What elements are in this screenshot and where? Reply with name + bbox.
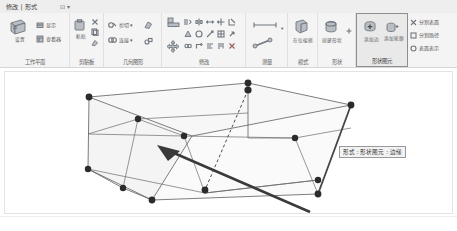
- vertex-top-back-left: [86, 94, 93, 101]
- mirror-pick-icon: [206, 18, 214, 26]
- button-align[interactable]: [167, 17, 181, 29]
- button-match-type[interactable]: [91, 39, 99, 47]
- button-add-edge-label: 添加边: [361, 37, 381, 42]
- model-canvas[interactable]: 形式 : 形状图元 : 边缘: [4, 71, 453, 214]
- vertex-top-front-right: [348, 102, 355, 109]
- panel-shape-element-label: 形状图元: [357, 57, 407, 65]
- button-add-profile[interactable]: 添加轮廓: [384, 20, 404, 41]
- button-pin[interactable]: [217, 30, 225, 38]
- button-offset[interactable]: [184, 18, 192, 26]
- button-cut-geometry-label: 剪切: [119, 23, 129, 28]
- button-demolish[interactable]: [144, 21, 153, 29]
- button-edit-in-place-label: 在位编辑: [292, 38, 314, 43]
- button-align-h[interactable]: [206, 42, 214, 50]
- trim-icon: [228, 18, 236, 26]
- workplane-show-icon: [36, 21, 44, 29]
- button-workplane-viewer-label: 查看器: [46, 37, 61, 42]
- vertex-mid-right: [292, 135, 298, 141]
- scale-icon: [206, 30, 214, 38]
- panel-geometry-label: 几何图形: [104, 58, 161, 66]
- vertex-top-inner: [244, 86, 251, 93]
- panel-mode: 在位编辑 模式: [288, 13, 318, 67]
- divide-surface-icon: [410, 19, 417, 26]
- button-workplane-set[interactable]: 设置: [8, 18, 32, 42]
- button-mirror-pick[interactable]: [206, 18, 214, 26]
- button-cut-geometry[interactable]: 剪切 ▾: [108, 21, 133, 29]
- button-measure-along[interactable]: [252, 37, 278, 49]
- button-divide-path[interactable]: 分割路径: [410, 32, 439, 39]
- button-split-face[interactable]: [144, 37, 153, 45]
- match-type-icon: [91, 39, 99, 47]
- panel-geometry: 剪切 ▾ 连接 ▾: [104, 13, 162, 67]
- panel-shape-element[interactable]: 添加边 添加轮廓 形状图元: [356, 13, 408, 67]
- copy-icon: [91, 28, 99, 36]
- button-add-profile-label: 添加轮廓: [384, 36, 404, 41]
- button-join-geometry[interactable]: 连接 ▾: [108, 36, 133, 44]
- button-measure-between[interactable]: [252, 20, 278, 30]
- workplane-set-icon: [8, 18, 32, 36]
- paste-icon: [73, 19, 89, 33]
- vertex-mid-left: [135, 116, 141, 122]
- offset-icon: [184, 18, 192, 26]
- join-geometry-chevron-down-icon[interactable]: ▾: [130, 38, 133, 43]
- contextual-tab-modify-form[interactable]: 修改 | 形式: [6, 2, 37, 11]
- button-create-form[interactable]: 创建形状: [321, 18, 343, 43]
- massing-wireframe: [5, 72, 452, 213]
- panel-measure: ▾ 测量: [246, 13, 288, 67]
- ribbon-panels: 设置 显示: [0, 13, 457, 67]
- button-workplane-show[interactable]: 显示: [36, 21, 56, 29]
- measure-between-icon: [252, 20, 278, 30]
- vertex-bot-mid-left: [120, 185, 126, 191]
- button-cut[interactable]: [91, 18, 99, 26]
- element-tooltip: 形式 : 形状图元 : 边缘: [339, 146, 406, 158]
- button-move[interactable]: [166, 40, 180, 53]
- button-workplane-show-label: 显示: [46, 23, 56, 28]
- panel-divide: 分割表面 分割路径 表面表示: [408, 13, 457, 67]
- pin-icon: [217, 30, 225, 38]
- measure-chevron-down-icon[interactable]: ▾: [281, 25, 283, 31]
- button-array[interactable]: [195, 30, 203, 38]
- delete-icon: [228, 42, 236, 50]
- add-edge-icon: [361, 18, 381, 36]
- cut-icon: [91, 18, 99, 26]
- button-rotate-90[interactable]: [195, 42, 203, 50]
- align-vertical-icon: [217, 42, 225, 50]
- vertex-bot-right: [315, 177, 321, 183]
- mirror-axis-icon: [195, 18, 203, 26]
- button-scale[interactable]: [206, 30, 214, 38]
- align-horizontal-icon: [206, 42, 214, 50]
- edit-in-place-icon: [292, 18, 314, 37]
- button-edit-in-place[interactable]: 在位编辑: [292, 18, 314, 43]
- rotate-90-icon: [195, 42, 203, 50]
- button-unpin[interactable]: [228, 30, 236, 38]
- panel-work-plane-label: 工作平面: [0, 58, 69, 66]
- button-divide-surface-label: 分割表面: [419, 20, 439, 25]
- vertex-bot-front-right: [315, 191, 322, 198]
- divide-path-icon: [410, 32, 417, 39]
- button-copy-move[interactable]: [184, 42, 192, 50]
- button-divide-surface[interactable]: 分割表面: [410, 19, 439, 26]
- button-workplane-viewer[interactable]: 查看器: [36, 35, 61, 43]
- button-mirror-axis[interactable]: [195, 18, 203, 26]
- button-void-form[interactable]: [345, 27, 353, 35]
- button-add-edge[interactable]: 添加边: [361, 18, 381, 42]
- join-geometry-icon: [108, 36, 117, 44]
- cut-geometry-chevron-down-icon[interactable]: ▾: [130, 23, 133, 28]
- button-rotate[interactable]: [217, 18, 225, 26]
- button-create-form-label: 创建形状: [321, 38, 343, 43]
- vertex-bot-front: [149, 197, 156, 204]
- vertex-top-back-right: [245, 80, 252, 87]
- button-copy[interactable]: [91, 28, 99, 36]
- button-surface-representation[interactable]: 表面表示: [410, 45, 439, 52]
- measure-along-icon: [252, 37, 278, 49]
- button-trim[interactable]: [228, 18, 236, 26]
- button-paste[interactable]: 粘贴: [73, 19, 89, 39]
- quick-access-toolbar[interactable]: ⊡ ▾: [60, 2, 70, 11]
- panel-clipboard: 粘贴: [70, 13, 104, 67]
- button-join-geometry-label: 连接: [119, 38, 129, 43]
- button-align-v[interactable]: [217, 42, 225, 50]
- button-delete[interactable]: [228, 42, 236, 50]
- button-split[interactable]: [184, 30, 192, 38]
- vertex-bot-back-left: [85, 166, 91, 172]
- button-surface-representation-label: 表面表示: [419, 46, 439, 51]
